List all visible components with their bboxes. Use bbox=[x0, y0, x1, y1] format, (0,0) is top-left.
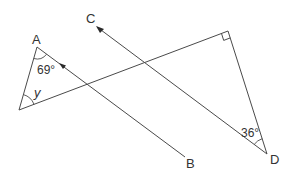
angle-label-D: 36° bbox=[241, 126, 259, 140]
point-label-A: A bbox=[32, 32, 41, 47]
line-AB bbox=[37, 47, 185, 157]
point-label-B: B bbox=[186, 156, 195, 171]
segment-A-left-vertex bbox=[19, 47, 37, 110]
angle-label-A: 69° bbox=[37, 63, 55, 77]
geometry-diagram: A C B D 69° y 36° bbox=[0, 0, 292, 184]
point-label-C: C bbox=[86, 11, 95, 26]
angle-arc-A bbox=[34, 54, 47, 59]
point-label-D: D bbox=[270, 152, 279, 167]
angle-arc-y bbox=[23, 95, 34, 105]
angle-label-y: y bbox=[33, 85, 42, 100]
